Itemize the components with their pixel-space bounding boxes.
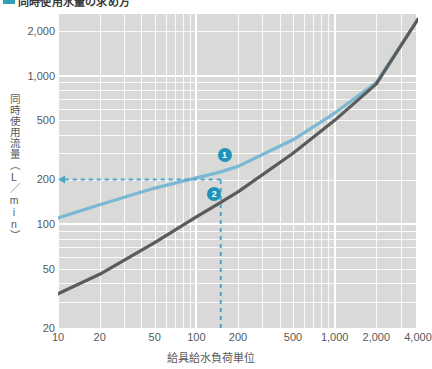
series-line-2 <box>58 19 418 294</box>
x-tick-2000: 2,000 <box>363 331 391 343</box>
page-heading: 同時使用水量の求め方 <box>0 0 421 7</box>
marker-1: 1 <box>218 148 232 162</box>
marker-2: 2 <box>207 187 221 201</box>
y-tick-1000: 1,000 <box>27 70 55 82</box>
x-tick-100: 100 <box>187 331 205 343</box>
y-tick-100: 100 <box>37 218 55 230</box>
series-line-1 <box>58 19 418 218</box>
x-tick-200: 200 <box>229 331 247 343</box>
series-layer <box>58 14 418 328</box>
x-axis-title: 給具給水負荷単位 <box>0 349 421 365</box>
x-tick-20: 20 <box>94 331 106 343</box>
y-tick-50: 50 <box>43 263 55 275</box>
y-tick-500: 500 <box>37 114 55 126</box>
x-tick-500: 500 <box>284 331 302 343</box>
y-tick-200: 200 <box>37 173 55 185</box>
x-tick-10: 10 <box>52 331 64 343</box>
x-tick-1000: 1,000 <box>321 331 349 343</box>
plot-area: 12 <box>58 14 418 328</box>
y-tick-2000: 2,000 <box>27 25 55 37</box>
x-tick-4000: 4,000 <box>404 331 432 343</box>
y-axis-title: 同時使用流量（L／min） <box>4 94 20 241</box>
x-tick-50: 50 <box>149 331 161 343</box>
readout-horizontal-head <box>58 175 65 183</box>
